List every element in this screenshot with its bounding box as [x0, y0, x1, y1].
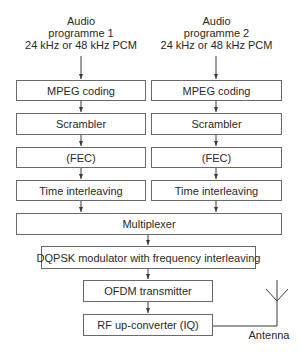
input-1-line-3: 24 kHz or 48 kHz PCM	[16, 39, 146, 51]
input-2-line-1: Audio	[151, 15, 282, 27]
multiplexer-box: Multiplexer	[16, 213, 282, 235]
ofdm-transmitter-box: OFDM transmitter	[83, 280, 213, 302]
dqpsk-modulator-box: DQPSK modulator with frequency interleav…	[41, 246, 256, 269]
antenna-icon	[266, 280, 288, 302]
antenna-label: Antenna	[246, 329, 292, 341]
fec-box-1: (FEC)	[16, 147, 146, 168]
input-label-programme-2: Audio programme 2 24 kHz or 48 kHz PCM	[151, 15, 282, 51]
rf-up-converter-box: RF up-converter (IQ)	[83, 314, 213, 336]
mpeg-coding-box-2: MPEG coding	[151, 80, 282, 101]
scrambler-box-1: Scrambler	[16, 113, 146, 135]
input-label-programme-1: Audio programme 1 24 kHz or 48 kHz PCM	[16, 15, 146, 51]
input-1-line-1: Audio	[16, 15, 146, 27]
time-interleaving-box-2: Time interleaving	[151, 180, 282, 201]
input-2-line-3: 24 kHz or 48 kHz PCM	[151, 39, 282, 51]
scrambler-box-2: Scrambler	[151, 113, 282, 135]
fec-box-2: (FEC)	[151, 147, 282, 168]
input-1-line-2: programme 1	[16, 27, 146, 39]
mpeg-coding-box-1: MPEG coding	[16, 80, 146, 101]
time-interleaving-box-1: Time interleaving	[16, 180, 146, 201]
input-2-line-2: programme 2	[151, 27, 282, 39]
